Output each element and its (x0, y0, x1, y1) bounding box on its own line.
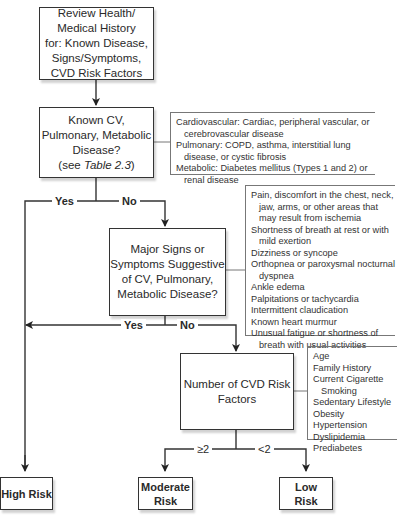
box-line: Symptoms Suggestive (110, 257, 224, 272)
note-item: Age (313, 351, 397, 363)
outcome-label: Moderate (141, 480, 190, 494)
known-disease-box: Known CV, Pulmonary, Metabolic Disease? … (39, 107, 154, 178)
box-line: Medical History (45, 21, 148, 36)
note-item: Obesity (313, 409, 397, 421)
symptoms-note: Pain, discomfort in the chest, neck, jaw… (245, 185, 395, 336)
box-line: CVD Risk Factors (45, 66, 148, 81)
note-item: Pulmonary: COPD, asthma, interstitial lu… (176, 140, 375, 163)
box-line: Major Signs or (110, 242, 224, 257)
box-line: Metabolic Disease? (110, 287, 224, 302)
outcome-label: High Risk (1, 487, 52, 501)
note-item: Metabolic: Diabetes mellitus (Types 1 an… (176, 163, 375, 186)
risk-factor-count-box: Number of CVD Risk Factors (180, 353, 294, 430)
outcome-label: Low (294, 480, 317, 494)
box-line: Factors (184, 392, 291, 407)
note-item: Cardiovascular: Cardiac, peripheral vasc… (176, 117, 375, 140)
box-line: Known CV, (42, 113, 152, 128)
edge-label-no: No (119, 195, 140, 207)
box-line: Review Health/ (45, 6, 148, 21)
edge-label-no: No (177, 319, 198, 331)
box-line: Number of CVD Risk (184, 377, 291, 392)
signs-symptoms-box: Major Signs or Symptoms Suggestive of CV… (109, 228, 226, 316)
note-item: Orthopnea or paroxysmal nocturnal dyspne… (251, 259, 395, 282)
box-line: Signs/Symptoms, (45, 51, 148, 66)
box-line: Pulmonary, Metabolic (42, 128, 152, 143)
note-item: Known heart murmur (251, 317, 395, 329)
outcome-label: Risk (294, 494, 317, 508)
outcome-label: Risk (141, 494, 190, 508)
edge-known-yes (25, 201, 96, 470)
note-item: Sedentary Lifestyle (313, 397, 397, 409)
risk-factors-note: Age Family History Current Cigarette Smo… (307, 346, 397, 440)
disease-definitions-note: Cardiovascular: Cardiac, peripheral vasc… (170, 112, 375, 175)
note-item: Shortness of breath at rest or with mild… (251, 225, 395, 248)
note-item: Pain, discomfort in the chest, neck, jaw… (251, 190, 395, 225)
note-item: Intermittent claudication (251, 305, 395, 317)
note-item: Current Cigarette Smoking (313, 374, 397, 397)
note-item: Dizziness or syncope (251, 248, 395, 260)
edge-label-yes: Yes (52, 195, 77, 207)
box-line: of CV, Pulmonary, (110, 272, 224, 287)
box-line: for: Known Disease, (45, 36, 148, 51)
note-item: Prediabetes (313, 443, 397, 455)
moderate-risk-box: Moderate Risk (138, 477, 193, 510)
box-line: Disease? (42, 143, 152, 158)
edge-label-ge2: ≥2 (194, 443, 212, 455)
high-risk-box: High Risk (0, 477, 53, 510)
box-line-ref: (see Table 2.3) (42, 158, 152, 173)
low-risk-box: Low Risk (279, 477, 333, 510)
note-item: Ankle edema (251, 282, 395, 294)
review-history-box: Review Health/ Medical History for: Know… (39, 7, 154, 80)
note-item: Hypertension (313, 420, 397, 432)
note-item: Family History (313, 363, 397, 375)
table-reference: Table 2.3 (84, 159, 131, 171)
note-item: Dyslipidemia (313, 432, 397, 444)
edge-label-yes: Yes (121, 319, 146, 331)
note-item: Palpitations or tachycardia (251, 294, 395, 306)
edge-label-lt2: <2 (255, 443, 274, 455)
edge-signs-no (165, 325, 236, 351)
